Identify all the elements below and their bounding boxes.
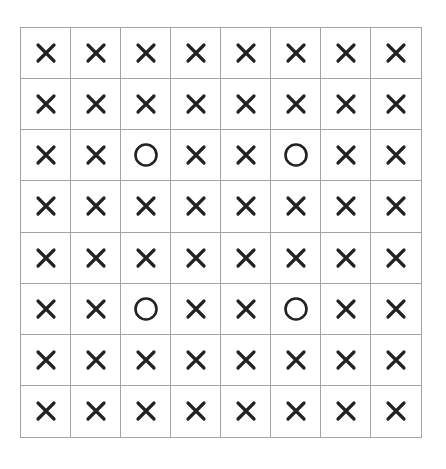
board-cell-r7-c1[interactable] (21, 335, 71, 386)
cross-icon (83, 245, 109, 271)
board-cell-r8-c6[interactable] (271, 386, 321, 437)
board-cell-r4-c3[interactable] (121, 181, 171, 232)
board-cell-r4-c2[interactable] (71, 181, 121, 232)
board-cell-r5-c2[interactable] (71, 233, 121, 284)
board-cell-r3-c5[interactable] (221, 130, 271, 181)
board-cell-r1-c4[interactable] (171, 28, 221, 79)
board-cell-r1-c3[interactable] (121, 28, 171, 79)
board-cell-r8-c8[interactable] (371, 386, 421, 437)
cross-icon (183, 40, 209, 66)
board-cell-r6-c2[interactable] (71, 284, 121, 335)
cross-icon (33, 245, 59, 271)
cross-icon (283, 347, 309, 373)
board-cell-r4-c4[interactable] (171, 181, 221, 232)
cross-icon (383, 91, 409, 117)
cross-icon (183, 142, 209, 168)
board-cell-r5-c7[interactable] (321, 233, 371, 284)
board-cell-r2-c6[interactable] (271, 79, 321, 130)
cross-icon (183, 193, 209, 219)
board-cell-r3-c8[interactable] (371, 130, 421, 181)
board-cell-r1-c5[interactable] (221, 28, 271, 79)
cross-icon (233, 398, 259, 424)
board-cell-r5-c1[interactable] (21, 233, 71, 284)
board-cell-r4-c1[interactable] (21, 181, 71, 232)
cross-icon (33, 193, 59, 219)
cross-icon (83, 347, 109, 373)
board-cell-r6-c8[interactable] (371, 284, 421, 335)
board-cell-r1-c6[interactable] (271, 28, 321, 79)
board-cell-r8-c4[interactable] (171, 386, 221, 437)
board-cell-r4-c6[interactable] (271, 181, 321, 232)
board-cell-r7-c8[interactable] (371, 335, 421, 386)
cross-icon (333, 398, 359, 424)
game-board (20, 27, 422, 438)
board-cell-r6-c1[interactable] (21, 284, 71, 335)
board-cell-r2-c5[interactable] (221, 79, 271, 130)
board-cell-r7-c2[interactable] (71, 335, 121, 386)
circle-icon (133, 296, 159, 322)
board-cell-r2-c7[interactable] (321, 79, 371, 130)
board-cell-r6-c5[interactable] (221, 284, 271, 335)
board-cell-r6-c6[interactable] (271, 284, 321, 335)
board-cell-r1-c1[interactable] (21, 28, 71, 79)
cross-icon (383, 142, 409, 168)
board-cell-r8-c1[interactable] (21, 386, 71, 437)
cross-icon (333, 142, 359, 168)
board-cell-r7-c3[interactable] (121, 335, 171, 386)
board-cell-r6-c4[interactable] (171, 284, 221, 335)
cross-icon (133, 40, 159, 66)
cross-icon (83, 142, 109, 168)
board-cell-r3-c4[interactable] (171, 130, 221, 181)
board-cell-r3-c7[interactable] (321, 130, 371, 181)
board-cell-r2-c4[interactable] (171, 79, 221, 130)
board-cell-r7-c6[interactable] (271, 335, 321, 386)
cross-icon (83, 398, 109, 424)
board-cell-r7-c7[interactable] (321, 335, 371, 386)
cross-icon (183, 347, 209, 373)
board-cell-r8-c7[interactable] (321, 386, 371, 437)
board-cell-r2-c2[interactable] (71, 79, 121, 130)
cross-icon (183, 296, 209, 322)
board-cell-r6-c7[interactable] (321, 284, 371, 335)
cross-icon (283, 193, 309, 219)
board-cell-r3-c3[interactable] (121, 130, 171, 181)
cross-icon (333, 296, 359, 322)
board-cell-r1-c2[interactable] (71, 28, 121, 79)
board-cell-r7-c4[interactable] (171, 335, 221, 386)
cross-icon (133, 91, 159, 117)
board-cell-r5-c6[interactable] (271, 233, 321, 284)
board-cell-r5-c3[interactable] (121, 233, 171, 284)
cross-icon (233, 193, 259, 219)
board-cell-r4-c8[interactable] (371, 181, 421, 232)
cross-icon (33, 347, 59, 373)
cross-icon (383, 347, 409, 373)
cross-icon (333, 193, 359, 219)
board-cell-r2-c3[interactable] (121, 79, 171, 130)
cross-icon (283, 245, 309, 271)
board-cell-r4-c5[interactable] (221, 181, 271, 232)
cross-icon (233, 347, 259, 373)
board-cell-r3-c2[interactable] (71, 130, 121, 181)
board-cell-r5-c4[interactable] (171, 233, 221, 284)
board-cell-r1-c7[interactable] (321, 28, 371, 79)
board-cell-r7-c5[interactable] (221, 335, 271, 386)
board-cell-r1-c8[interactable] (371, 28, 421, 79)
board-cell-r8-c2[interactable] (71, 386, 121, 437)
board-cell-r5-c8[interactable] (371, 233, 421, 284)
board-cell-r2-c1[interactable] (21, 79, 71, 130)
cross-icon (333, 347, 359, 373)
board-cell-r4-c7[interactable] (321, 181, 371, 232)
cross-icon (83, 91, 109, 117)
cross-icon (33, 296, 59, 322)
cross-icon (233, 40, 259, 66)
cross-icon (333, 91, 359, 117)
board-cell-r5-c5[interactable] (221, 233, 271, 284)
board-cell-r6-c3[interactable] (121, 284, 171, 335)
cross-icon (183, 245, 209, 271)
board-cell-r3-c1[interactable] (21, 130, 71, 181)
board-cell-r2-c8[interactable] (371, 79, 421, 130)
board-cell-r8-c5[interactable] (221, 386, 271, 437)
board-cell-r3-c6[interactable] (271, 130, 321, 181)
cross-icon (133, 398, 159, 424)
board-cell-r8-c3[interactable] (121, 386, 171, 437)
